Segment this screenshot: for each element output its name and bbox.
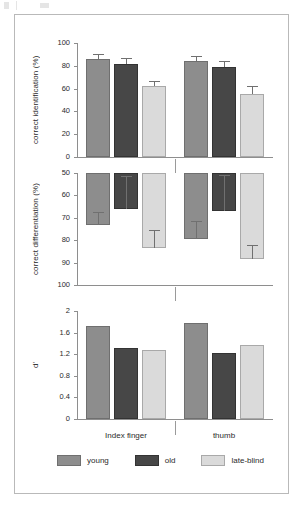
bar-lateblind <box>240 345 264 419</box>
x-axis-line <box>77 419 273 420</box>
y-axis-line <box>77 311 78 420</box>
y-axis-tick <box>74 333 77 334</box>
y-axis-tick-label: 1.6 <box>37 328 70 337</box>
legend-label-young: young <box>87 456 109 465</box>
y-axis-tick-label: 0.8 <box>37 371 70 380</box>
y-axis-tick <box>74 354 77 355</box>
legend-item-late-blind: late-blind <box>201 455 263 466</box>
legend-item-old: old <box>135 455 176 466</box>
x-axis-label-thumb: thumb <box>175 431 273 440</box>
legend-label-old: old <box>165 456 176 465</box>
y-axis-tick-label: 1.2 <box>37 349 70 358</box>
legend-swatch-young-icon <box>57 455 81 466</box>
bar-young <box>86 326 110 419</box>
bar-old <box>212 353 236 419</box>
y-axis-tick-label: 0.4 <box>37 392 70 401</box>
chart-legend: young old late-blind <box>57 455 264 466</box>
y-axis-tick <box>74 311 77 312</box>
chart-panel-dprime: d'00.40.81.21.62 <box>15 15 290 495</box>
x-axis-label-index-finger: Index finger <box>77 431 175 440</box>
bar-lateblind <box>142 350 166 419</box>
legend-label-late-blind: late-blind <box>231 456 263 465</box>
y-axis-tick-label: 0 <box>37 414 70 423</box>
y-axis-tick <box>74 397 77 398</box>
legend-swatch-late-blind-icon <box>201 455 225 466</box>
y-axis-tick-label: 2 <box>37 306 70 315</box>
scan-artifact-strip <box>0 0 303 14</box>
bar-old <box>114 348 138 419</box>
legend-swatch-old-icon <box>135 455 159 466</box>
bar-young <box>184 323 208 419</box>
figure-panel-container: correct identification (%)020406080100 c… <box>14 14 289 494</box>
y-axis-tick <box>74 419 77 420</box>
y-axis-tick <box>74 376 77 377</box>
legend-item-young: young <box>57 455 109 466</box>
